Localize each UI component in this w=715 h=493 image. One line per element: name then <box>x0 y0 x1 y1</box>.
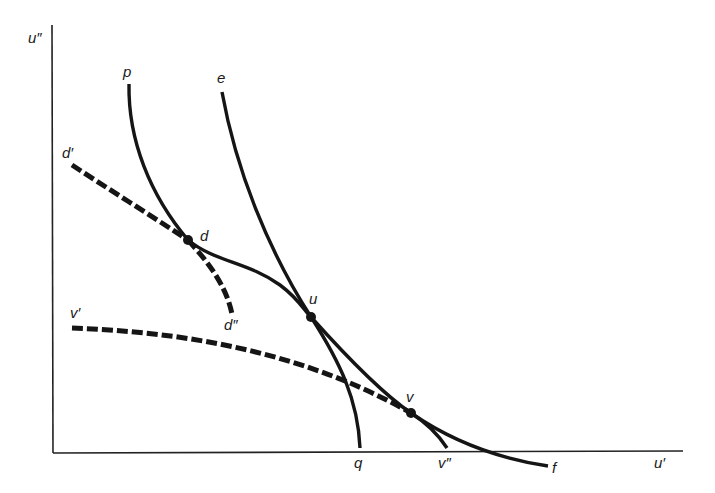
label-v: v <box>406 388 415 405</box>
x-axis-label: u′ <box>654 454 666 471</box>
label-d-prime: d′ <box>62 144 74 161</box>
y-axis-label: u″ <box>28 29 42 46</box>
label-v-prime: v′ <box>70 304 82 321</box>
label-q: q <box>354 454 363 471</box>
label-u: u <box>309 290 318 307</box>
x-axis <box>53 451 683 453</box>
point-v <box>406 408 416 418</box>
label-d-double-prime: d″ <box>224 316 238 333</box>
point-u <box>306 312 316 322</box>
label-e: e <box>217 69 225 86</box>
y-axis <box>52 25 53 453</box>
label-p: p <box>122 63 131 80</box>
curve-d-prime-d <box>72 165 188 240</box>
curve-p <box>129 84 188 240</box>
label-d: d <box>200 227 209 244</box>
curve-d-u-v-f <box>188 240 548 466</box>
curve-e-q <box>222 92 360 448</box>
utility-frontier-diagram: u″ u′ p e d′ d d″ u v′ v q v″ f <box>0 0 715 493</box>
label-v-double-prime: v″ <box>438 454 452 471</box>
curve-d-d-double-prime <box>188 240 232 314</box>
label-f: f <box>552 459 558 476</box>
point-d <box>183 235 193 245</box>
